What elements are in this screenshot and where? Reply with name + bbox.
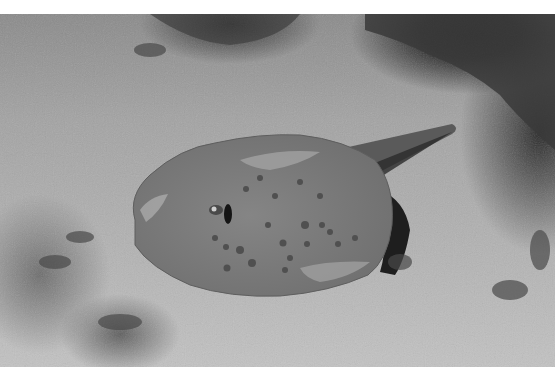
bottom-border (0, 367, 555, 384)
ray-spiracle (224, 204, 232, 224)
top-border (0, 0, 555, 14)
stingray-photo (0, 14, 555, 367)
stingray-illustration (0, 14, 555, 367)
